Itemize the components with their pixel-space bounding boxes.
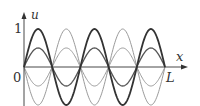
origin-label: 0	[13, 70, 21, 85]
y-tick-one: 1	[14, 21, 22, 36]
standing-wave-plot: u 1 0 x L	[0, 0, 200, 106]
x-axis-label: x	[176, 49, 184, 64]
x-axis-arrow-icon	[181, 65, 188, 70]
y-axis-label: u	[31, 8, 39, 22]
x-end-label: L	[165, 70, 175, 85]
y-axis-arrow-icon	[22, 12, 27, 19]
